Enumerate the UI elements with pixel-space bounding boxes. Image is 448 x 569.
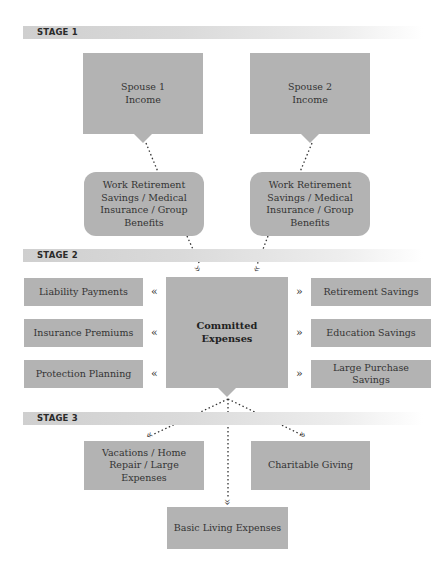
left-arrow-icon: «	[151, 327, 158, 339]
large-purchase-savings-label: Large Purchase Savings	[315, 362, 427, 387]
benefits-box-2: Work Retirement Savings / Medical Insura…	[250, 172, 370, 236]
insurance-premiums-label: Insurance Premiums	[34, 327, 134, 340]
vacations-label: Vacations / Home Repair / Large Expenses	[98, 447, 190, 485]
stage-3-band: STAGE 3	[23, 412, 423, 425]
protection-planning-label: Protection Planning	[36, 368, 132, 381]
benefits-box-1-label: Work Retirement Savings / Medical Insura…	[94, 179, 194, 229]
spouse-1-income-line1: Spouse 1	[121, 81, 165, 94]
protection-planning-box: Protection Planning	[24, 360, 143, 388]
connector-spouse2-to-benefits	[300, 143, 312, 172]
stage-1-band: STAGE 1	[23, 26, 423, 39]
right-arrow-icon: »	[296, 327, 303, 339]
retirement-savings-box: Retirement Savings	[311, 278, 431, 306]
stage-2-band: STAGE 2	[23, 249, 423, 262]
stage-1-label: STAGE 1	[37, 26, 78, 39]
committed-expenses-box: Committed Expenses	[166, 277, 288, 388]
retirement-savings-label: Retirement Savings	[323, 286, 418, 299]
benefits-box-1: Work Retirement Savings / Medical Insura…	[84, 172, 204, 236]
spouse-1-income-line2: Income	[125, 94, 161, 107]
spouse-1-income-box: Spouse 1 Income	[83, 53, 203, 134]
stage-3-label: STAGE 3	[37, 412, 78, 425]
left-arrow-icon: «	[151, 286, 158, 298]
large-purchase-savings-box: Large Purchase Savings	[311, 360, 431, 388]
liability-payments-label: Liability Payments	[39, 286, 128, 299]
committed-expenses-label: Committed Expenses	[170, 320, 284, 345]
benefits-box-2-label: Work Retirement Savings / Medical Insura…	[260, 179, 360, 229]
right-arrow-icon: »	[296, 368, 303, 380]
spouse-2-income-line1: Spouse 2	[288, 81, 332, 94]
spouse-2-income-box: Spouse 2 Income	[250, 53, 370, 134]
left-arrow-icon: «	[151, 368, 158, 380]
education-savings-box: Education Savings	[311, 319, 431, 347]
stage-2-label: STAGE 2	[37, 249, 78, 262]
arrow-to-basic-icon: »	[221, 499, 233, 506]
charitable-giving-label: Charitable Giving	[268, 459, 353, 472]
basic-living-expenses-label: Basic Living Expenses	[174, 522, 281, 535]
basic-living-expenses-box: Basic Living Expenses	[167, 507, 288, 549]
vacations-box: Vacations / Home Repair / Large Expenses	[84, 441, 204, 490]
right-arrow-icon: »	[296, 286, 303, 298]
education-savings-label: Education Savings	[326, 327, 416, 340]
charitable-giving-box: Charitable Giving	[251, 441, 370, 490]
spouse-2-income-line2: Income	[292, 94, 328, 107]
insurance-premiums-box: Insurance Premiums	[24, 319, 143, 347]
connector-spouse1-to-benefits	[146, 143, 158, 172]
liability-payments-box: Liability Payments	[24, 278, 143, 306]
